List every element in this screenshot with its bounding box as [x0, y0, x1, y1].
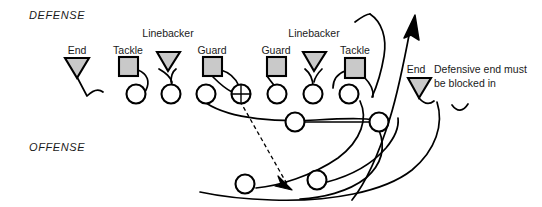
marker-guard-left-square[interactable]: [203, 57, 222, 76]
defender-flow-hook: [355, 14, 370, 22]
marker-o-lineman-1[interactable]: [127, 85, 146, 104]
assignment-end-left: [77, 77, 103, 96]
label-linebacker-right: Linebacker: [288, 27, 340, 39]
marker-guard-right-square[interactable]: [267, 57, 286, 76]
marker-o-lineman-4[interactable]: [268, 85, 287, 104]
football-play-diagram: DEFENSE OFFENSE End Tackle Linebacker Gu…: [0, 0, 542, 207]
note-line-2: be blocked in: [434, 77, 496, 89]
marker-o-deep-back[interactable]: [236, 175, 255, 194]
label-guard-right: Guard: [261, 44, 290, 56]
note-line-1: Defensive end must: [434, 63, 527, 75]
label-end-left: End: [68, 44, 87, 56]
offense-label: OFFENSE: [29, 141, 85, 153]
play-diagram-canvas: DEFENSE OFFENSE End Tackle Linebacker Gu…: [0, 0, 542, 207]
outer-hook-right: [452, 104, 468, 110]
marker-o-ball-carrier[interactable]: [308, 171, 327, 190]
assignment-guard-left: [221, 70, 239, 86]
marker-linebacker-right-triangle[interactable]: [303, 52, 326, 71]
handoff-arrow-head: [275, 176, 292, 190]
label-linebacker-left: Linebacker: [142, 27, 194, 39]
handoff-arrow-shaft: [240, 101, 287, 184]
assignment-linebacker-left-hook: [171, 69, 176, 82]
label-end-right: End: [407, 63, 426, 75]
blocking-scheme-paths: [200, 14, 468, 200]
assignment-tackle-right-right: [364, 77, 373, 97]
marker-linebacker-left-triangle[interactable]: [157, 52, 180, 71]
defense-label: DEFENSE: [29, 9, 85, 21]
marker-o-lineman-6[interactable]: [340, 85, 359, 104]
offensive-backfield-players: [236, 113, 389, 194]
marker-tackle-right-square[interactable]: [345, 58, 365, 78]
label-guard-left: Guard: [197, 44, 226, 56]
marker-o-lineman-2[interactable]: [162, 85, 181, 104]
marker-o-lineman-5[interactable]: [304, 85, 323, 104]
marker-end-left-triangle[interactable]: [65, 58, 89, 78]
defender-flow-arc: [370, 14, 385, 97]
run-arrow-head: [404, 15, 419, 40]
marker-o-lineman-3[interactable]: [197, 85, 216, 104]
marker-o-back-2[interactable]: [370, 113, 389, 132]
marker-o-center[interactable]: [232, 85, 251, 104]
offensive-line-players: [127, 85, 359, 104]
assignment-end-right: [419, 98, 434, 103]
marker-tackle-left-square[interactable]: [119, 57, 138, 76]
label-tackle-left: Tackle: [113, 44, 143, 56]
label-tackle-right: Tackle: [340, 44, 370, 56]
marker-o-back-1[interactable]: [286, 113, 305, 132]
marker-end-right-triangle[interactable]: [408, 78, 431, 98]
assignment-guard-left-2: [213, 77, 232, 92]
